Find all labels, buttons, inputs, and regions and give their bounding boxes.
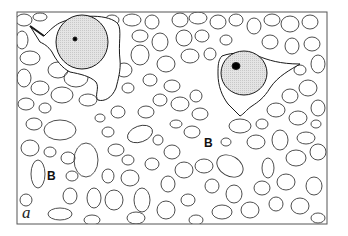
region-label-b-left: B	[47, 170, 56, 182]
neuron-right	[218, 51, 300, 116]
region-label-b-right: B	[204, 137, 213, 149]
neuron-left	[30, 15, 120, 101]
cell-drawing	[0, 0, 348, 236]
panel-label: a	[22, 204, 31, 221]
histology-diagram: B B a	[0, 0, 348, 236]
